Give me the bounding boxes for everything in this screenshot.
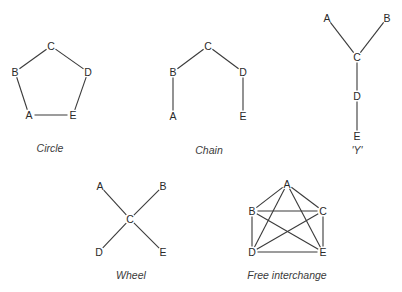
edge-b-c	[360, 22, 383, 52]
edge-a-b	[256, 187, 282, 207]
network-chain: ABCDEChain	[169, 40, 247, 156]
node-e: E	[159, 246, 166, 258]
edge-b-c	[177, 49, 203, 68]
network-wheel: ABCDEWheel	[95, 180, 166, 281]
network-caption: Circle	[37, 142, 64, 154]
edge-c-d	[212, 49, 238, 68]
edge-c-d	[56, 49, 84, 69]
network-caption: Chain	[195, 144, 223, 156]
network-caption: Free interchange	[247, 269, 327, 281]
node-a: A	[283, 178, 290, 190]
node-d: D	[84, 66, 92, 78]
node-a: A	[323, 12, 330, 24]
edge-a-b	[17, 77, 28, 110]
node-b: B	[159, 180, 166, 192]
edge-d-e	[75, 77, 86, 110]
node-a: A	[169, 110, 176, 122]
node-e: E	[353, 130, 360, 142]
edge-e-c	[134, 223, 159, 248]
node-c: C	[353, 51, 361, 63]
node-e: E	[69, 109, 76, 121]
node-c: C	[319, 205, 327, 217]
node-b: B	[248, 205, 255, 217]
network-diagram-canvas: ABCDECircle ABCDEChain ABCDE'Y' ABCDEWhe…	[0, 0, 402, 292]
edge-b-c	[19, 49, 46, 69]
network-free-interchange: ABCDEFree interchange	[247, 178, 327, 281]
edge-a-c	[291, 187, 318, 207]
node-b: B	[169, 66, 176, 78]
network-y: ABCDE'Y'	[323, 12, 390, 156]
node-c: C	[126, 213, 134, 225]
edge-d-c	[103, 223, 126, 248]
network-caption: Wheel	[116, 269, 146, 281]
node-a: A	[96, 180, 103, 192]
network-caption: 'Y'	[351, 144, 363, 156]
edge-a-c	[104, 190, 127, 215]
node-e: E	[319, 246, 326, 258]
edge-a-c	[330, 22, 353, 52]
node-d: D	[239, 66, 247, 78]
node-e: E	[239, 110, 246, 122]
node-d: D	[95, 246, 103, 258]
node-c: C	[47, 40, 55, 52]
edge-b-c	[134, 190, 159, 215]
node-c: C	[204, 40, 212, 52]
node-b: B	[11, 66, 18, 78]
node-a: A	[25, 109, 32, 121]
node-d: D	[353, 90, 361, 102]
node-b: B	[383, 12, 390, 24]
node-d: D	[248, 246, 256, 258]
network-circle: ABCDECircle	[11, 40, 92, 154]
